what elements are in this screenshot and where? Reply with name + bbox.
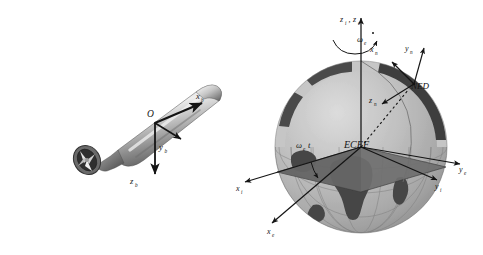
label-axis-xi: x i <box>235 184 243 195</box>
body-frame-origin-dot <box>154 122 156 124</box>
label-axis-xe: x e <box>266 227 275 238</box>
label-origin-O: O <box>147 109 154 119</box>
svg-text:b: b <box>201 97 204 103</box>
svg-text:ω: ω <box>357 34 363 44</box>
svg-text:i: i <box>241 189 243 195</box>
svg-text:y: y <box>404 44 409 53</box>
svg-text:y: y <box>458 165 463 174</box>
propeller-duct <box>68 140 106 179</box>
label-rotation-rate: ω e <box>357 34 367 46</box>
svg-text:x: x <box>235 184 240 193</box>
label-ned: NED <box>410 81 430 91</box>
svg-text:y: y <box>434 182 439 191</box>
label-zi-sub: i <box>345 20 347 26</box>
label-axis-yi: y i <box>434 182 442 193</box>
label-ze-base: z <box>352 15 357 24</box>
svg-text:x: x <box>195 91 200 101</box>
svg-text:x: x <box>266 227 271 236</box>
svg-text:ω: ω <box>296 140 302 150</box>
svg-text:n: n <box>410 49 413 55</box>
svg-text:y: y <box>158 142 163 152</box>
diagram-canvas: O x b y b z b <box>0 0 483 255</box>
svg-text:b: b <box>165 148 168 154</box>
svg-text:n: n <box>375 50 378 56</box>
label-axis-yb: y b <box>158 142 168 154</box>
svg-text:b: b <box>135 182 138 188</box>
figure-root: O x b y b z b <box>0 0 483 255</box>
svg-text:e: e <box>272 232 275 238</box>
svg-text:z: z <box>129 176 134 186</box>
svg-text:e: e <box>464 170 467 176</box>
label-ecef: ECEF <box>343 139 370 150</box>
svg-text:n: n <box>374 101 377 107</box>
svg-text:z: z <box>339 15 344 24</box>
label-axis-ye: y e <box>458 165 467 176</box>
svg-text:i: i <box>440 187 442 193</box>
label-axis-zb: z b <box>129 176 138 188</box>
earth-frames-panel: z i , z e ω e x n y n z n NED ECEF ω e t <box>235 15 467 255</box>
svg-text:x: x <box>369 45 374 54</box>
label-comma: , <box>349 15 351 24</box>
vehicle-body-frame-panel: O x b y b z b <box>68 85 222 188</box>
label-axis-yn: y n <box>404 44 413 55</box>
label-axis-zi-ze: z i , z e <box>339 15 361 26</box>
rotation-rate-dot <box>372 32 374 34</box>
svg-text:e: e <box>364 40 367 46</box>
label-axis-xn: x n <box>369 45 378 56</box>
axis-yn-arrow <box>414 48 424 84</box>
